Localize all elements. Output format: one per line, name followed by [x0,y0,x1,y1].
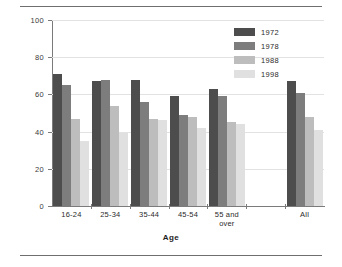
bar [179,115,188,206]
bar-group [52,20,91,206]
bar-group [91,20,130,206]
legend-label: 1978 [261,42,279,51]
legend-swatch-icon [234,42,255,50]
legend-swatch-icon [234,28,255,36]
y-tick-label: 100 [14,16,44,25]
bar [227,122,236,206]
legend-item[interactable]: 1998 [234,68,304,80]
bar [296,93,305,206]
bottom-divider-rule [20,255,322,256]
category-divider-tick [91,204,92,209]
bar [305,117,314,206]
bar [53,74,62,206]
bar-group [130,20,169,206]
x-axis-title: Age [0,233,342,242]
y-tick-mark [48,206,52,207]
x-tick-label: 55 andover [199,210,255,228]
x-tick-label-line: over [199,219,255,228]
bar [140,102,149,206]
bar [314,130,323,206]
category-divider-tick [130,204,131,209]
figure-container: Percentage 020406080100 16-2425-3435-444… [0,0,342,267]
bar [110,106,119,206]
y-tick-label: 80 [14,53,44,62]
bar [101,80,110,206]
y-tick-label: 40 [14,128,44,137]
bar [131,80,140,206]
y-tick-mark [48,169,52,170]
top-divider-rule [20,6,322,7]
bar [80,141,89,206]
y-tick-mark [48,94,52,95]
bar [218,96,227,206]
y-tick-label: 0 [14,202,44,211]
legend-swatch-icon [234,56,255,64]
x-axis-line [52,206,325,207]
x-tick-label-line: 55 and [199,210,255,219]
bar [188,117,197,206]
y-tick-mark [48,20,52,21]
bar [158,120,167,206]
bar [62,85,71,206]
x-tick-label-line: All [277,210,333,219]
legend-swatch-icon [234,70,255,78]
category-divider-tick [207,204,208,209]
category-divider-tick [169,204,170,209]
y-tick-label: 20 [14,165,44,174]
y-tick-mark [48,132,52,133]
bar [71,119,80,206]
x-tick-label: All [277,210,333,219]
legend: 1972197819881998 [234,26,304,82]
y-tick-mark [48,57,52,58]
category-divider-tick [285,204,286,209]
bar [170,96,179,206]
legend-label: 1988 [261,56,279,65]
bar [197,128,206,206]
bar-group [169,20,208,206]
legend-label: 1972 [261,28,279,37]
legend-item[interactable]: 1978 [234,40,304,52]
bar [287,81,296,206]
bar [92,81,101,206]
bar [119,133,128,206]
bar [209,89,218,206]
bar [236,124,245,206]
category-divider-tick [246,204,247,209]
legend-label: 1998 [261,70,279,79]
y-tick-label: 60 [14,90,44,99]
legend-item[interactable]: 1988 [234,54,304,66]
legend-item[interactable]: 1972 [234,26,304,38]
bar [149,119,158,206]
